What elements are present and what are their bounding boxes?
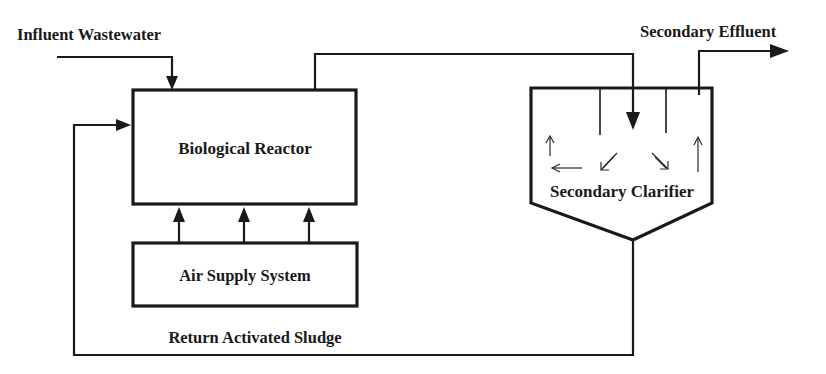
effluent-label: Secondary Effluent [640,22,777,41]
clarifier-flow-arrows [546,136,702,172]
air-flow-arrows [173,207,315,243]
return-sludge-line [74,119,633,355]
reactor-label: Biological Reactor [178,139,312,158]
secondary-clarifier: Secondary Clarifier [531,88,712,240]
influent-label: Influent Wastewater [17,25,161,44]
biological-reactor-box: Biological Reactor [133,90,356,204]
reactor-to-clarifier-line [315,54,640,130]
clarifier-label: Secondary Clarifier [550,182,694,201]
process-flow-diagram: Influent Wastewater Biological Reactor A… [0,0,826,374]
air-supply-label: Air Supply System [179,266,311,285]
air-supply-box: Air Supply System [133,243,357,306]
return-sludge-label: Return Activated Sludge [168,328,341,347]
influent-arrow [57,57,178,90]
